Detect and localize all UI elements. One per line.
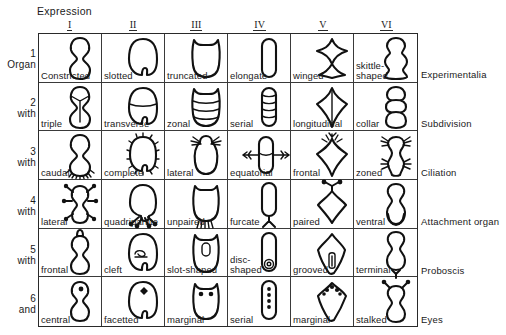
- cell-r4c2: quadripartite: [102, 180, 165, 229]
- cell-label-r1c4: elongate: [230, 71, 267, 81]
- cell-r5c3: slot-shaped: [165, 229, 228, 278]
- cell-r4c4: furcate: [228, 180, 291, 229]
- column-header-6: VI: [355, 19, 418, 33]
- cell-r3c1: caudal: [39, 131, 102, 180]
- cell-r2c5: longitudinal: [291, 83, 354, 132]
- row-category-subdivision: Subdivision: [421, 118, 472, 129]
- cell-label-r3c1: caudal: [41, 168, 70, 178]
- cell-r3c4: equatorial: [228, 131, 291, 180]
- cell-label-r3c5: frontal: [293, 168, 320, 178]
- collar-shape-icon: [376, 84, 416, 130]
- cell-label-r5c3: slot-shaped: [167, 265, 217, 275]
- cell-label-r5c4: disc- shaped: [230, 255, 262, 275]
- column-header-5: V: [291, 19, 354, 33]
- expression-figure: Expression I II III IV V VI 1Organ 2with…: [0, 0, 506, 335]
- cell-label-r4c6: ventral: [356, 217, 385, 227]
- cell-label-r6c6: stalked: [356, 315, 387, 325]
- serial-eye-icon: [249, 278, 289, 324]
- cell-label-r1c2: slotted: [104, 71, 133, 81]
- cell-r4c1: lateral: [39, 180, 102, 229]
- cell-r5c6: terminal: [354, 229, 417, 278]
- cell-label-r4c5: paired: [293, 217, 320, 227]
- cell-label-r2c4: serial: [230, 119, 253, 129]
- row-category-eyes: Eyes: [421, 314, 443, 325]
- cell-r1c3: truncated: [165, 34, 228, 83]
- cell-label-r2c6: collar: [356, 119, 379, 129]
- column-header-4: IV: [228, 19, 291, 33]
- cell-r4c5: paired: [291, 180, 354, 229]
- zonal-shape-icon: [186, 84, 226, 130]
- row-category-proboscis: Proboscis: [421, 265, 465, 276]
- cell-label-r6c4: serial: [230, 315, 253, 325]
- cell-label-r6c5: marginal: [293, 315, 330, 325]
- cell-r1c1: Constricted: [39, 34, 102, 83]
- cell-label-r6c1: central: [41, 315, 70, 325]
- row-stub-6: 6and: [0, 293, 36, 315]
- column-header-row: I II III IV V VI: [38, 19, 418, 33]
- cell-r6c4: serial: [228, 277, 291, 326]
- cell-label-r5c5: grooved: [293, 265, 328, 275]
- cell-r6c2: facetted: [102, 277, 165, 326]
- row-stub-4: 4with: [0, 195, 36, 217]
- cell-label-r3c4: equatorial: [230, 168, 273, 178]
- row-stub-5: 5with: [0, 244, 36, 266]
- cell-label-r1c3: truncated: [167, 71, 208, 81]
- cell-r5c2: cleft: [102, 229, 165, 278]
- cell-r1c2: slotted: [102, 34, 165, 83]
- row-stub-1: 1Organ: [0, 48, 36, 70]
- cell-label-r2c5: longitudinal: [293, 119, 342, 129]
- cell-r2c1: triple: [39, 83, 102, 132]
- row-stub-3: 3with: [0, 146, 36, 168]
- cell-r1c4: elongate: [228, 34, 291, 83]
- cell-r3c6: zoned: [354, 131, 417, 180]
- cell-r6c1: central: [39, 277, 102, 326]
- cell-label-r1c1: Constricted: [41, 71, 90, 81]
- cell-r1c5: winged: [291, 34, 354, 83]
- serial-shape-icon: [249, 84, 289, 130]
- cell-r3c2: complete: [102, 131, 165, 180]
- cell-label-r4c3: unpaired: [167, 217, 205, 227]
- cell-r2c4: serial: [228, 83, 291, 132]
- cell-label-r5c2: cleft: [104, 265, 122, 275]
- row-stub-2: 2with: [0, 97, 36, 119]
- cell-r4c6: ventral: [354, 180, 417, 229]
- cell-r6c5: marginal: [291, 277, 354, 326]
- cell-r2c6: collar: [354, 83, 417, 132]
- cell-label-r5c1: frontal: [41, 265, 68, 275]
- cell-label-r3c3: lateral: [167, 168, 194, 178]
- cell-r2c2: transverse: [102, 83, 165, 132]
- cell-label-r5c6: terminal: [356, 265, 391, 275]
- cleft-proboscis-icon: [123, 230, 163, 276]
- row-category-ciliation: Ciliation: [421, 167, 457, 178]
- cell-r6c3: marginal: [165, 277, 228, 326]
- cell-r3c5: frontal: [291, 131, 354, 180]
- cell-label-r4c2: quadripartite: [104, 217, 158, 227]
- row-category-experimentalia: Experimentalia: [421, 69, 487, 80]
- cell-r6c6: stalked: [354, 277, 417, 326]
- cell-label-r3c6: zoned: [356, 168, 382, 178]
- cell-label-r2c2: transverse: [104, 119, 149, 129]
- row-category-attachment-organ: Attachment organ: [421, 216, 499, 227]
- cell-label-r2c1: triple: [41, 119, 62, 129]
- cell-r5c1: frontal: [39, 229, 102, 278]
- column-header-1: I: [38, 19, 101, 33]
- figure-title: Expression: [37, 5, 92, 17]
- cell-r5c4: disc- shaped: [228, 229, 291, 278]
- cell-r4c3: unpaired: [165, 180, 228, 229]
- cell-label-r4c4: furcate: [230, 217, 260, 227]
- cell-label-r6c2: facetted: [104, 315, 139, 325]
- cell-label-r6c3: marginal: [167, 315, 204, 325]
- cell-label-r1c6: skittle- shaped: [356, 61, 388, 81]
- cell-label-r3c2: complete: [104, 168, 143, 178]
- cell-r3c3: lateral: [165, 131, 228, 180]
- cell-label-r2c3: zonal: [167, 119, 190, 129]
- cell-label-r4c1: lateral: [41, 217, 68, 227]
- column-header-3: III: [165, 19, 228, 33]
- cell-label-r1c5: winged: [293, 71, 324, 81]
- cell-r2c3: zonal: [165, 83, 228, 132]
- column-header-2: II: [101, 19, 164, 33]
- expression-grid: Constricted slotted truncated elongate w…: [38, 33, 418, 327]
- triple-shape-icon: [60, 84, 100, 130]
- cell-r5c5: grooved: [291, 229, 354, 278]
- cell-r1c6: skittle- shaped: [354, 34, 417, 83]
